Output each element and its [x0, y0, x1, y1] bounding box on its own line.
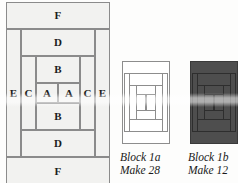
patch-label: E	[10, 88, 18, 99]
piecing-diagram: F E E D C C B A A B D	[6, 2, 110, 183]
patch-b-top: B	[36, 56, 80, 83]
block-title: Block 1a	[120, 151, 180, 164]
patch-label: C	[83, 88, 91, 99]
patch-b-bottom: B	[36, 103, 80, 130]
block-center-a-right	[214, 94, 224, 111]
block-title: Block 1b	[188, 151, 238, 164]
patch-label: F	[55, 166, 62, 177]
block-center-a-right	[146, 94, 156, 111]
block-quantity: Make 12	[188, 164, 238, 177]
patch-f-bottom: F	[6, 157, 110, 183]
block-artwork-1b	[190, 61, 238, 144]
patch-e-right: E	[95, 29, 110, 157]
patch-e-left: E	[6, 29, 21, 157]
patch-label: D	[54, 37, 62, 48]
patch-a-right: A	[58, 83, 80, 103]
block-caption-1a: Block 1a Make 28	[120, 151, 180, 177]
block-center-a-left	[204, 94, 214, 111]
block-figure-1a: Block 1a Make 28	[122, 61, 178, 144]
patch-label: B	[54, 111, 62, 122]
figure-root: F E E D C C B A A B D	[0, 0, 238, 183]
patch-label: F	[55, 10, 62, 21]
patch-label: C	[24, 88, 32, 99]
block-figure-1b: Block 1b Make 12	[190, 61, 238, 144]
block-quantity: Make 28	[120, 164, 180, 177]
patch-label: A	[43, 88, 51, 99]
patch-a-left: A	[36, 83, 58, 103]
patch-f-top: F	[6, 2, 110, 29]
patch-c-left: C	[21, 56, 36, 130]
block-caption-1b: Block 1b Make 12	[188, 151, 238, 177]
patch-label: A	[65, 88, 73, 99]
patch-label: D	[54, 138, 62, 149]
patch-d-top: D	[21, 29, 95, 56]
patch-label: E	[99, 88, 107, 99]
block-artwork-1a	[122, 61, 170, 144]
patch-c-right: C	[80, 56, 95, 130]
patch-label: B	[54, 64, 62, 75]
block-center-a-left	[136, 94, 146, 111]
patch-d-bottom: D	[21, 130, 95, 157]
